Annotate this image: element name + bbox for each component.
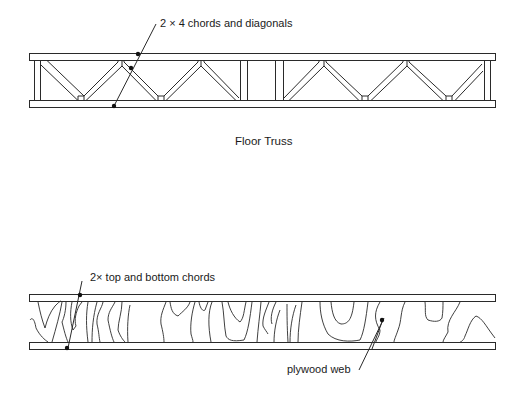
plywood-web-callout-label: plywood web	[287, 364, 351, 375]
plywood-chords-callout-label: 2× top and bottom chords	[90, 272, 215, 283]
floor-truss-drawing	[30, 54, 496, 108]
floor-truss-caption: Floor Truss	[235, 136, 293, 148]
top-chord	[30, 54, 496, 61]
top-chord	[30, 295, 496, 302]
truss-drawings	[0, 0, 525, 406]
plywood-grain	[30, 301, 495, 342]
floor-truss-callout-label: 2 × 4 chords and diagonals	[160, 18, 292, 29]
bottom-chord	[30, 343, 496, 350]
bottom-chord	[30, 101, 496, 108]
plywood-web-truss-drawing	[30, 295, 496, 350]
diagram-canvas: 2 × 4 chords and diagonals Floor Truss 2…	[0, 0, 525, 406]
